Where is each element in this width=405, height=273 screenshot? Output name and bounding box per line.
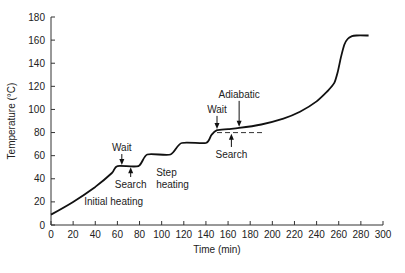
x-tick-label: 260 [330,229,347,240]
x-tick-label: 100 [153,229,170,240]
adiabatic-label: Adiabatic [219,89,260,100]
temperature-curve [51,35,369,214]
x-tick-label: 280 [353,229,370,240]
tick-labels: 0204060801001201401601800204060801001201… [28,12,391,241]
y-tick-label: 20 [34,196,46,207]
x-tick-label: 80 [134,229,146,240]
wait-label: Wait [207,104,227,115]
step-heating-label: heating [156,179,189,190]
search-label: Search [115,179,147,190]
x-tick-label: 120 [175,229,192,240]
arrow-up-icon [128,167,133,173]
x-tick-label: 300 [375,229,392,240]
x-tick-label: 60 [112,229,124,240]
x-tick-label: 220 [286,229,303,240]
x-tick-label: 20 [68,229,80,240]
x-tick-label: 40 [90,229,102,240]
x-tick-label: 240 [308,229,325,240]
y-tick-label: 100 [28,104,45,115]
y-tick-label: 40 [34,173,46,184]
y-tick-label: 60 [34,150,46,161]
x-axis-label: Time (min) [193,244,240,255]
y-tick-label: 80 [34,127,46,138]
y-axis-label: Temperature (°C) [6,83,17,160]
x-tick-label: 180 [242,229,259,240]
temperature-time-chart: 0204060801001201401601800204060801001201… [0,0,405,273]
initial-heating-label: Initial heating [84,196,143,207]
arrow-down-icon [215,123,220,129]
arrow-up-icon [229,134,234,140]
x-tick-label: 200 [264,229,281,240]
step-heating-label: Step [156,167,177,178]
arrow-down-icon [119,159,124,165]
search-label: Search [216,149,248,160]
x-tick-label: 160 [220,229,237,240]
arrow-down-icon [237,121,242,127]
annotations: WaitSearchInitial heatingStepheatingWait… [84,89,260,207]
y-tick-label: 180 [28,12,45,23]
data-series [51,35,369,214]
y-tick-label: 160 [28,35,45,46]
wait-label: Wait [112,142,132,153]
y-tick-label: 0 [39,220,45,231]
x-tick-label: 140 [198,229,215,240]
y-tick-label: 140 [28,58,45,69]
x-tick-label: 0 [48,229,54,240]
y-tick-label: 120 [28,81,45,92]
